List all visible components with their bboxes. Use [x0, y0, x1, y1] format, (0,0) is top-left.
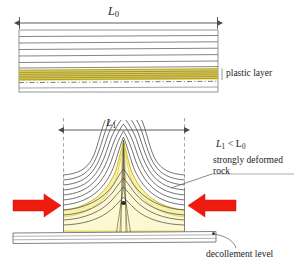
L0-subscript: 0	[115, 9, 119, 19]
right-shortening-arrow	[188, 194, 236, 217]
undeformed-panel	[19, 17, 222, 92]
strongly-deformed-rock-label: strongly deformed rock	[213, 155, 299, 176]
decollement-level-label: decollement level	[206, 249, 273, 260]
L0-label: L0	[108, 5, 119, 20]
plastic-layer-band	[19, 69, 218, 81]
L1-subscript: 1	[112, 121, 116, 130]
decollement-level-bar	[13, 232, 216, 244]
length-inequality-label: L1 < L0	[216, 138, 246, 151]
left-shortening-arrow	[13, 194, 61, 217]
L1-label: L1	[106, 116, 116, 131]
fold-structure	[63, 96, 185, 232]
figure-canvas: L0 L1 plastic layer L1 < L0 strongly def…	[0, 0, 299, 270]
plastic-layer-label: plastic layer	[226, 68, 272, 79]
deformed-rock-line-2: rock	[213, 166, 230, 176]
deformed-rock-line-1: strongly deformed	[213, 155, 283, 165]
diagram-svg	[0, 0, 299, 270]
decollement-leader	[214, 234, 236, 248]
deformed-rock-leader	[171, 174, 212, 188]
stem-node	[121, 201, 126, 205]
decollement-leader-dot	[212, 232, 215, 235]
